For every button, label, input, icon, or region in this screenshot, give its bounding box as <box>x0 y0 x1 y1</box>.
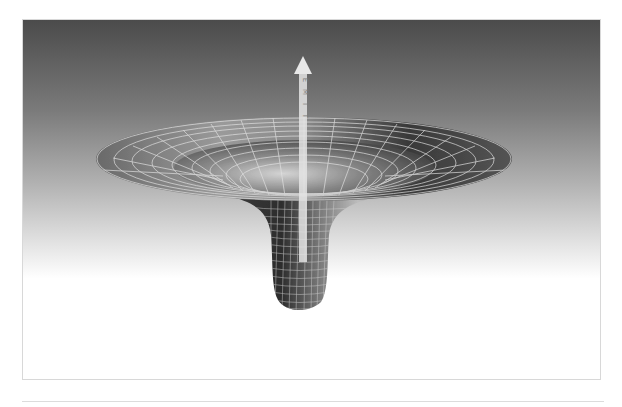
gravity-well-figure: E M I T <box>22 19 601 380</box>
divider-line <box>22 401 604 402</box>
spacetime-funnel-illustration: E M I T <box>23 20 601 380</box>
time-arrow-label-e: E <box>301 78 309 82</box>
time-arrow-label-m: M <box>301 89 309 95</box>
time-arrow-label-t: T <box>301 113 309 119</box>
time-arrow-label-i: I <box>301 103 309 105</box>
